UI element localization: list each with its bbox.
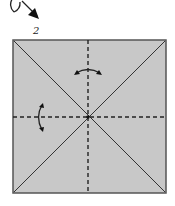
step-pointer-arrow-icon <box>11 0 39 19</box>
step-number-label: 2 <box>33 26 39 36</box>
center-point <box>86 115 90 119</box>
origami-diagram <box>0 0 175 206</box>
